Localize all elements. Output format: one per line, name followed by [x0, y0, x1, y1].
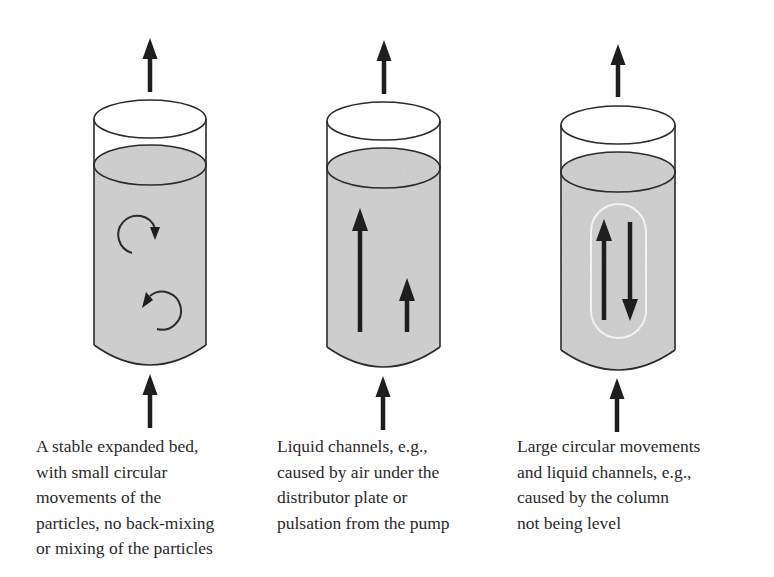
caption-line: distributor plate or	[277, 485, 450, 511]
caption-liquid-channels: Liquid channels, e.g., caused by air und…	[277, 434, 450, 536]
caption-line: movements of the	[36, 485, 214, 511]
caption-line: and liquid channels, e.g.,	[517, 460, 700, 486]
caption-stable-bed: A stable expanded bed, with small circul…	[36, 434, 214, 562]
caption-line: caused by air under the	[277, 460, 450, 486]
caption-line: Large circular movements	[517, 434, 700, 460]
caption-line: or mixing of the particles	[36, 536, 214, 562]
caption-line: A stable expanded bed,	[36, 434, 214, 460]
outflow-arrow-up-icon	[143, 38, 158, 92]
panel-stable-bed	[94, 38, 206, 428]
outflow-arrow-up-icon	[611, 44, 626, 97]
caption-large-circular-movements: Large circular movements and liquid chan…	[517, 434, 700, 536]
panel-large-circular-movements	[561, 44, 675, 432]
column-cylinder	[327, 102, 440, 367]
inflow-arrow-up-icon	[376, 376, 391, 430]
caption-line: Liquid channels, e.g.,	[277, 434, 450, 460]
column-cylinder	[561, 106, 675, 370]
panel-liquid-channels	[327, 40, 440, 430]
column-cylinder	[94, 100, 206, 365]
caption-line: with small circular	[36, 460, 214, 486]
caption-line: caused by the column	[517, 485, 700, 511]
inflow-arrow-up-icon	[143, 374, 158, 428]
caption-line: not being level	[517, 511, 700, 537]
caption-line: particles, no back-mixing	[36, 511, 214, 537]
outflow-arrow-up-icon	[377, 40, 392, 94]
inflow-arrow-up-icon	[610, 378, 625, 432]
caption-line: pulsation from the pump	[277, 511, 450, 537]
